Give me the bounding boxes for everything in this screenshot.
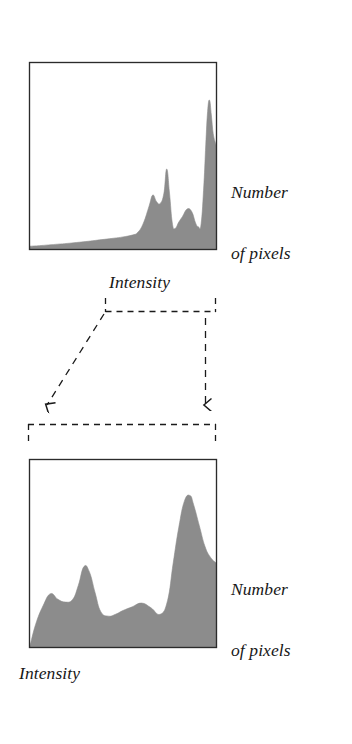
top-y-axis-label-line2: of pixels <box>231 243 291 263</box>
bottom-y-axis-label: Number of pixels <box>231 538 291 702</box>
bottom-y-axis-label-line2: of pixels <box>231 640 291 660</box>
histogram-stretching-figure: Number of pixels Intensity Number of pix… <box>0 0 352 744</box>
top-histogram-plot <box>30 63 217 250</box>
intensity-mapping-annotation <box>28 298 216 441</box>
top-y-axis-label-line1: Number <box>231 182 291 202</box>
bottom-x-axis-label: Intensity <box>19 663 80 683</box>
bottom-histogram-plot <box>30 460 217 648</box>
left-mapping-arrow-shaft <box>47 314 104 405</box>
top-x-axis-label: Intensity <box>109 272 170 292</box>
bottom-y-axis-label-line1: Number <box>231 579 291 599</box>
figure-canvas <box>0 0 352 744</box>
top-y-axis-label: Number of pixels <box>231 141 291 305</box>
